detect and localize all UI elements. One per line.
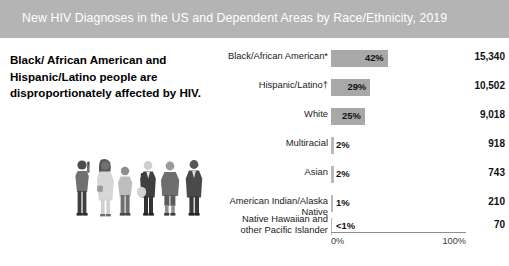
bar-value-label: 29%: [347, 81, 366, 92]
x-axis-tick-100: 100%: [401, 236, 466, 246]
row-label: Asian: [215, 166, 328, 177]
row-label: White: [215, 108, 328, 119]
bar-value-label: 2%: [336, 139, 350, 150]
row-label-line2: other Pacific Islander: [215, 224, 328, 235]
header-band: New HIV Diagnoses in the US and Dependen…: [0, 0, 509, 38]
row-count: 9,018: [405, 109, 505, 120]
chart-row: Black/African American* 42% 15,340: [215, 50, 509, 76]
bar: 25%: [331, 108, 365, 125]
callout-panel: Black/ African American and Hispanic/Lat…: [0, 38, 215, 266]
row-label: Native Hawaiian and other Pacific Island…: [215, 213, 328, 235]
row-count: 743: [405, 167, 505, 178]
x-axis-line: [331, 232, 466, 233]
page-title: New HIV Diagnoses in the US and Dependen…: [22, 11, 447, 25]
callout-headline: Black/ African American and Hispanic/Lat…: [10, 52, 210, 102]
row-count: 10,502: [405, 80, 505, 91]
chart-row: White 25% 9,018: [215, 108, 509, 134]
bar-value-label: 1%: [336, 197, 350, 208]
bar: [331, 137, 334, 154]
x-axis-tick-0: 0%: [331, 236, 344, 246]
row-count: 70: [405, 219, 505, 230]
row-count: 210: [405, 196, 505, 207]
row-count: 15,340: [405, 51, 505, 62]
footnote: [8, 257, 478, 266]
bar-value-label: 25%: [342, 110, 361, 121]
row-label: Hispanic/Latino†: [215, 79, 328, 90]
bar: 29%: [331, 79, 370, 96]
bar-value-label: 2%: [336, 168, 350, 179]
race-ethnicity-bar-chart: Black/African American* 42% 15,340 Hispa…: [215, 38, 509, 266]
bar: [331, 166, 334, 183]
chart-row: Asian 2% 743: [215, 166, 509, 192]
row-label: Black/African American*: [215, 50, 328, 61]
bar-value-label: <1%: [336, 220, 355, 231]
people-group-illustration: [68, 156, 210, 222]
row-label-line1: Native Hawaiian and: [215, 213, 328, 224]
row-label: Multiracial: [215, 137, 328, 148]
row-count: 918: [405, 138, 505, 149]
chart-row: Hispanic/Latino† 29% 10,502: [215, 79, 509, 105]
bar: 42%: [331, 50, 388, 67]
chart-row: Multiracial 2% 918: [215, 137, 509, 163]
bar-value-label: 42%: [365, 52, 384, 63]
bar: [331, 195, 333, 212]
